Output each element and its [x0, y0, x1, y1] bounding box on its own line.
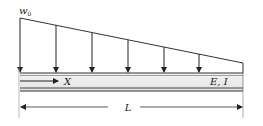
load-top-line [20, 18, 243, 63]
beam-diagram: w0 E, I X L [0, 0, 263, 126]
beam-properties-label: E, I [209, 76, 229, 87]
beam: E, I [20, 73, 243, 91]
length-dimension: L [21, 102, 242, 113]
x-label: X [63, 76, 72, 87]
length-label: L [124, 102, 132, 113]
distributed-load: w0 [19, 5, 243, 73]
load-label: w0 [19, 5, 32, 17]
